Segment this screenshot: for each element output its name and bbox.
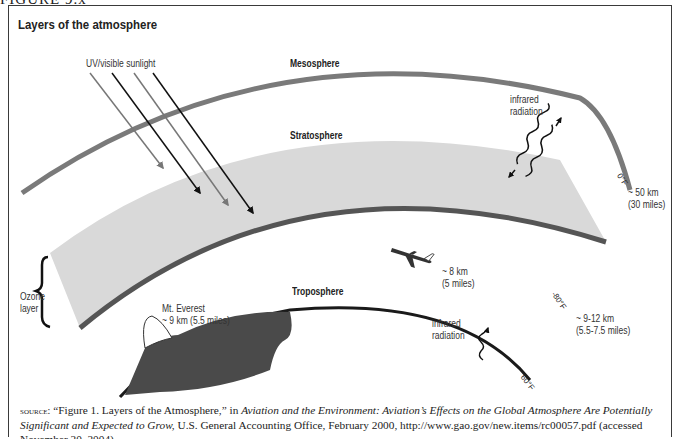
infrared-bottom-label-2: radiation xyxy=(432,330,465,342)
ozone-label-2: layer xyxy=(20,303,38,315)
stratosphere-label: Stratosphere xyxy=(290,130,342,142)
plane-altitude-label-2: (5 miles) xyxy=(442,278,475,290)
infrared-arrow-up xyxy=(556,118,561,126)
stratosphere-region xyxy=(50,141,606,328)
source-citation: source: “Figure 1. Layers of the Atmosph… xyxy=(20,403,670,439)
altitude-912km-label-1: ~ 9-12 km xyxy=(576,313,614,325)
everest-label-2: ~ 9 km (5.5 miles) xyxy=(162,315,230,327)
plane-altitude-label-1: ~ 8 km xyxy=(442,266,468,278)
altitude-50km-label-2: (30 miles) xyxy=(628,199,665,211)
mesosphere-label: Mesosphere xyxy=(290,58,340,70)
ozone-label-1: Ozone xyxy=(20,291,45,303)
infrared-bottom-label-1: infrared xyxy=(432,318,461,330)
source-prefix: source: xyxy=(20,405,50,416)
airplane-icon xyxy=(388,241,434,272)
source-quote: “Figure 1. Layers of the Atmosphere,” in xyxy=(50,404,241,416)
everest-label-1: Mt. Everest xyxy=(162,303,205,315)
infrared-top-label-2: radiation xyxy=(510,106,543,118)
altitude-50km-label-1: ~ 50 km xyxy=(628,187,658,199)
infrared-top-label-1: infrared xyxy=(510,94,539,106)
altitude-912km-label-2: (5.5-7.5 miles) xyxy=(576,325,630,337)
troposphere-label: Troposphere xyxy=(292,286,343,298)
sunlight-label: UV/visible sunlight xyxy=(86,58,155,70)
